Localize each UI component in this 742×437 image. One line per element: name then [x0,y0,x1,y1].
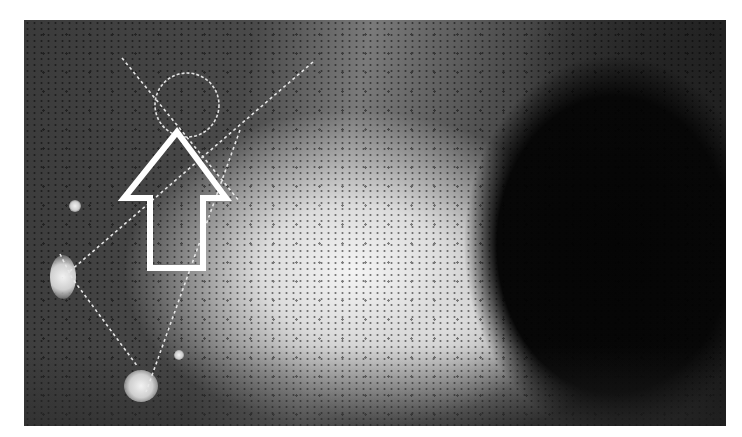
dashed-line-b [62,62,313,278]
dashed-circle-marker-icon [155,73,219,137]
dashed-line-d [146,130,240,392]
annotation-overlay [0,0,742,437]
up-arrow-icon [124,132,226,268]
dashed-line-c [60,254,138,367]
